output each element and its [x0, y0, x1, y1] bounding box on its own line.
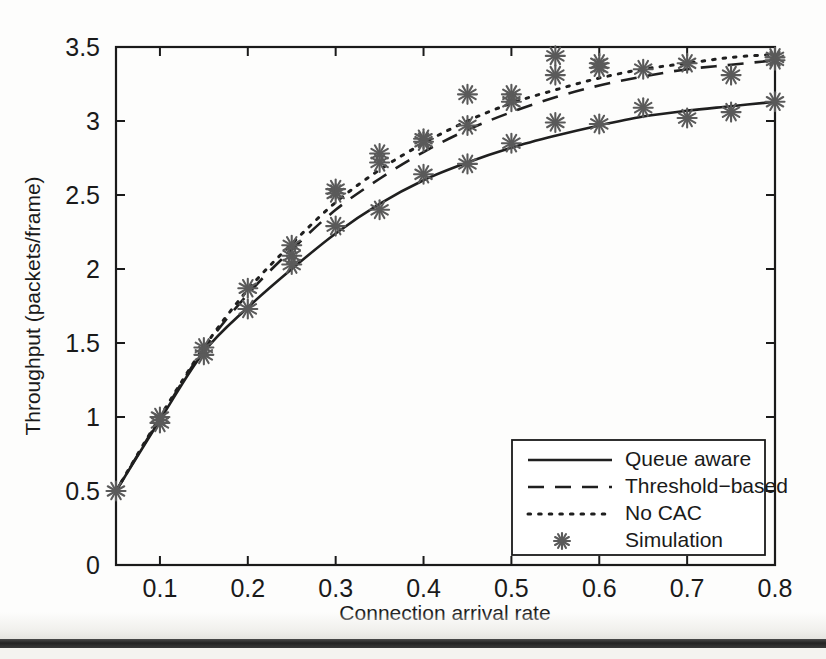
curve-threshold-based — [116, 60, 775, 491]
y-axis-title: Throughput (packets/frame) — [21, 176, 44, 435]
scan-dark-band-artifact — [0, 639, 826, 648]
y-tick-label: 3.5 — [65, 33, 100, 61]
y-tick-label: 0 — [86, 551, 100, 579]
curve-no-cac — [116, 54, 775, 491]
x-tick-label: 0.3 — [318, 574, 353, 602]
simulation-marker — [238, 279, 257, 298]
data-curves — [116, 54, 775, 491]
simulation-marker — [722, 66, 741, 85]
scan-bottom-margin — [0, 648, 826, 659]
simulation-marker — [458, 116, 477, 135]
simulation-marker — [370, 153, 389, 172]
simulation-marker — [107, 482, 126, 501]
simulation-marker — [546, 66, 565, 85]
y-tick-label: 1.5 — [65, 329, 100, 357]
y-tick-label: 2 — [86, 255, 100, 283]
simulation-markers — [107, 46, 785, 500]
simulation-marker — [326, 217, 345, 236]
legend-label-no-cac: No CAC — [625, 501, 702, 524]
chart-legend[interactable]: Queue awareThreshold−basedNo CACSimulati… — [512, 440, 788, 555]
x-tick-label: 0.2 — [230, 574, 265, 602]
y-tick-label: 0.5 — [65, 477, 100, 505]
x-tick-label: 0.6 — [582, 574, 617, 602]
simulation-marker — [458, 154, 477, 173]
x-axis-tick-labels: 0.10.20.30.40.50.60.70.8 — [143, 574, 793, 602]
simulation-marker — [282, 255, 301, 274]
simulation-marker — [546, 113, 565, 132]
x-tick-label: 0.1 — [143, 574, 178, 602]
y-tick-label: 2.5 — [65, 181, 100, 209]
figure-container: 0.10.20.30.40.50.60.70.8 00.511.522.533.… — [0, 0, 826, 659]
simulation-marker — [458, 85, 477, 104]
x-tick-label: 0.8 — [758, 574, 793, 602]
simulation-marker — [326, 184, 345, 203]
throughput-vs-arrival-rate-chart: 0.10.20.30.40.50.60.70.8 00.511.522.533.… — [0, 0, 826, 659]
simulation-marker — [590, 114, 609, 133]
x-tick-label: 0.5 — [494, 574, 529, 602]
scan-gradient-artifact — [0, 612, 826, 639]
legend-label-simulation: Simulation — [625, 528, 723, 551]
simulation-marker — [414, 165, 433, 184]
simulation-marker — [766, 92, 785, 111]
x-tick-label: 0.7 — [670, 574, 705, 602]
legend-label-threshold-based: Threshold−based — [625, 474, 788, 497]
simulation-marker — [546, 46, 565, 65]
simulation-marker — [590, 58, 609, 77]
legend-label-queue-aware: Queue aware — [625, 447, 751, 470]
simulation-marker — [370, 200, 389, 219]
y-axis-tick-labels: 00.511.522.533.5 — [65, 33, 100, 579]
curve-queue-aware — [116, 102, 775, 491]
y-tick-label: 3 — [86, 107, 100, 135]
x-tick-label: 0.4 — [406, 574, 441, 602]
y-tick-label: 1 — [86, 403, 100, 431]
